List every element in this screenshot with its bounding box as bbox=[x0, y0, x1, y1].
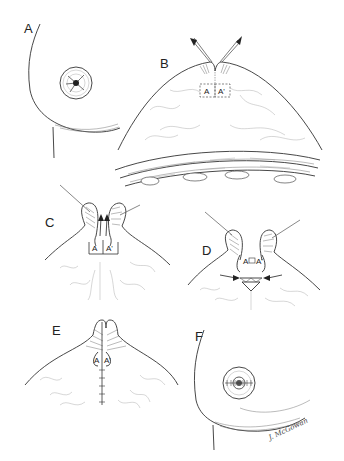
panel-a: A bbox=[24, 21, 120, 158]
everted-nipple-e bbox=[25, 320, 178, 385]
inverted-nipple-a bbox=[60, 67, 92, 99]
nipple-left-c bbox=[45, 203, 98, 260]
flap-label-a-prime-e: A' bbox=[104, 356, 111, 365]
arrow-up-icon bbox=[98, 214, 104, 221]
flap-label-a-d: A bbox=[243, 257, 249, 266]
panel-label-a: A bbox=[24, 21, 33, 36]
panel-d: D A A' bbox=[188, 212, 320, 310]
rib-1 bbox=[141, 177, 159, 185]
nipple-right-c bbox=[108, 203, 170, 265]
arrow-left-icon bbox=[263, 275, 270, 281]
panel-e: E A A' bbox=[25, 320, 178, 408]
flap-label-a-prime-b: A' bbox=[218, 87, 225, 96]
flap-label-a-e: A bbox=[94, 356, 100, 365]
panel-label-b: B bbox=[160, 56, 169, 71]
panel-label-e: E bbox=[52, 323, 61, 338]
flap-label-a-prime-d: A' bbox=[256, 257, 263, 266]
nipple-right-d bbox=[260, 230, 320, 290]
panel-f: F J. McGowan bbox=[194, 329, 310, 450]
rib-3 bbox=[225, 171, 249, 179]
panel-label-d: D bbox=[202, 243, 211, 258]
rib-4 bbox=[274, 175, 296, 183]
breast-dome-b bbox=[118, 62, 322, 150]
arrow-up-right-icon bbox=[236, 36, 242, 45]
panel-label-c: C bbox=[45, 215, 54, 230]
arrow-right-icon bbox=[233, 275, 240, 281]
flap-label-a-prime-c: A' bbox=[106, 244, 113, 253]
everted-nipple-f bbox=[223, 367, 255, 399]
illustration: A B A A' bbox=[0, 0, 344, 461]
panel-c: C A A' bbox=[45, 185, 170, 300]
panel-b: B A A' bbox=[115, 36, 322, 186]
flap-label-a-c: A bbox=[92, 244, 98, 253]
rib-2 bbox=[183, 173, 207, 181]
flap-label-a-b: A bbox=[204, 87, 210, 96]
